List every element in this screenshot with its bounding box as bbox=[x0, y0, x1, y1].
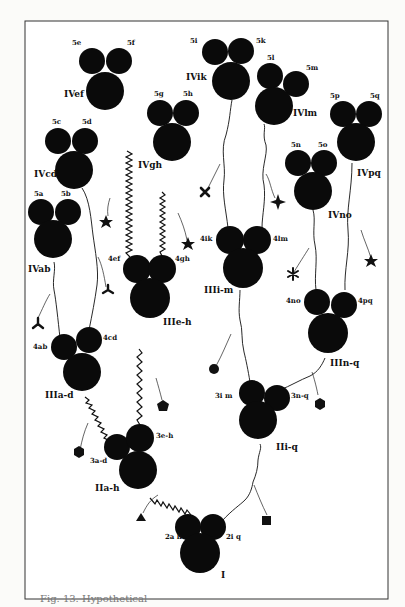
node-label-IIIa-d: IIIa-d bbox=[45, 390, 74, 400]
node-label-IVno: IVno bbox=[328, 210, 352, 220]
circle-icon bbox=[209, 364, 219, 374]
label-5h: 5h bbox=[183, 89, 193, 98]
label-4ef: 4ef bbox=[108, 254, 121, 263]
label-5o: 5o bbox=[318, 140, 328, 149]
label-5e: 5e bbox=[72, 38, 82, 47]
node-label-IIIe-h: IIIe-h bbox=[163, 317, 192, 327]
label-3im: 3i m bbox=[215, 391, 233, 400]
node-label-IVgh: IVgh bbox=[138, 160, 162, 170]
label-5c: 5c bbox=[52, 117, 61, 126]
figure-caption: Fig. 13. Hypothetical bbox=[40, 593, 147, 604]
node-label-IVab: IVab bbox=[28, 264, 51, 274]
node-label-IIIi-m: IIIi-m bbox=[204, 285, 234, 295]
label-4ik: 4ik bbox=[200, 234, 213, 243]
node-label-IVef: IVef bbox=[64, 89, 85, 99]
label-4cd: 4cd bbox=[103, 333, 117, 342]
node-label-IIIn-q: IIIn-q bbox=[330, 358, 360, 368]
label-2iq: 2i q bbox=[226, 532, 241, 541]
label-5k: 5k bbox=[256, 36, 266, 45]
label-3n-q: 3n-q bbox=[291, 391, 309, 400]
label-4lm: 4lm bbox=[273, 234, 289, 243]
label-5i: 5i bbox=[190, 36, 198, 45]
label-5a: 5a bbox=[34, 189, 44, 198]
label-4no: 4no bbox=[286, 296, 301, 305]
node-label-IIa-h: IIa-h bbox=[95, 483, 120, 493]
node-label-IVpq: IVpq bbox=[357, 168, 381, 178]
label-3a-d: 3a-d bbox=[90, 456, 107, 465]
label-4pq: 4pq bbox=[358, 296, 373, 305]
phylogeny-diagram: 2a h 2i q I 3a-d 3e-h IIa-h 3i m 3n-q II… bbox=[0, 0, 405, 607]
node-label-IVlm: IVlm bbox=[293, 108, 318, 118]
label-5m: 5m bbox=[306, 63, 319, 72]
label-4ab: 4ab bbox=[33, 342, 47, 351]
label-2ah: 2a h bbox=[165, 532, 182, 541]
label-5f: 5f bbox=[127, 38, 136, 47]
label-5l: 5l bbox=[267, 53, 275, 62]
label-3e-h: 3e-h bbox=[156, 431, 173, 440]
node-label-IVcd: IVcd bbox=[34, 169, 58, 179]
label-5g: 5g bbox=[154, 89, 164, 98]
label-5d: 5d bbox=[82, 117, 92, 126]
node-label-I: I bbox=[221, 570, 225, 580]
label-5p: 5p bbox=[330, 91, 340, 100]
label-5q: 5q bbox=[370, 91, 380, 100]
node-label-IVik: IVik bbox=[186, 72, 207, 82]
label-5n: 5n bbox=[291, 140, 301, 149]
label-5b: 5b bbox=[61, 189, 71, 198]
node-label-IIi-q: IIi-q bbox=[276, 442, 299, 452]
square-icon bbox=[262, 516, 271, 525]
label-4gh: 4gh bbox=[175, 254, 190, 263]
